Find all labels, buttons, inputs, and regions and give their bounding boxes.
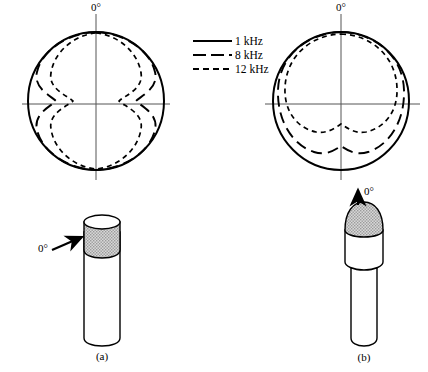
legend: 1 kHz 8 kHz 12 kHz	[193, 35, 269, 75]
legend-item-1khz: 1 kHz	[193, 35, 263, 47]
mic-b-zero-degree-label: 0°	[364, 185, 374, 197]
legend-label-8khz: 8 kHz	[235, 49, 263, 61]
polar-plot-a: 0°	[22, 1, 170, 180]
figure-container: 0° 1 kHz 8 kHz 12 kHz	[0, 0, 428, 372]
legend-label-12khz: 12 kHz	[235, 63, 269, 75]
legend-label-1khz: 1 kHz	[235, 35, 263, 47]
legend-item-8khz: 8 kHz	[193, 49, 263, 61]
caption-a: (a)	[96, 350, 109, 363]
figure-svg: 0° 1 kHz 8 kHz 12 kHz	[0, 0, 428, 372]
mic-b-handle	[351, 268, 377, 346]
microphone-diagram-b: 0° (b)	[345, 185, 383, 364]
mic-a-zero-degree-label: 0°	[38, 242, 48, 254]
caption-b: (b)	[358, 351, 371, 364]
mic-b-capsule-head	[345, 202, 383, 237]
plot-b-zero-degree-label: 0°	[336, 1, 346, 13]
mic-a-zero-degree-arrow-icon	[52, 237, 82, 250]
polar-plot-b: 0°	[265, 1, 420, 180]
legend-item-12khz: 12 kHz	[193, 63, 269, 75]
plot-a-zero-degree-label: 0°	[91, 1, 101, 13]
mic-a-top-cap	[84, 215, 120, 229]
microphone-diagram-a: 0° (a)	[38, 215, 120, 363]
